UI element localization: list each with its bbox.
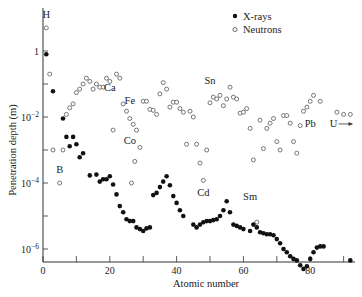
xray-point <box>71 135 76 140</box>
neutron-point <box>161 81 165 85</box>
xray-point <box>348 258 353 263</box>
neutron-point <box>205 148 209 152</box>
neutron-point <box>215 97 219 101</box>
xray-point <box>178 208 183 213</box>
neutron-point <box>318 99 322 103</box>
xray-point <box>214 217 219 222</box>
neutron-point <box>285 114 289 118</box>
neutron-point <box>145 99 149 103</box>
neutron-point <box>348 112 352 116</box>
xray-point <box>241 227 246 232</box>
xray-point <box>271 233 276 238</box>
y-tick-label: 10−2 <box>21 110 39 123</box>
xray-point <box>228 210 233 215</box>
neutron-point <box>218 93 222 97</box>
xray-point <box>121 210 126 215</box>
x-tick-label: 40 <box>172 265 182 276</box>
neutron-point <box>151 108 155 112</box>
legend: X-rays Neutrons <box>233 11 282 36</box>
element-label: Cd <box>197 187 210 198</box>
neutron-point <box>241 110 245 114</box>
xray-point <box>74 142 79 147</box>
element-label: Fe <box>125 95 136 106</box>
xray-point <box>281 247 286 252</box>
xray-point <box>148 225 153 230</box>
neutron-point <box>225 97 229 101</box>
neutron-point <box>155 112 159 116</box>
neutron-point <box>105 76 109 80</box>
neutron-point <box>261 147 265 151</box>
x-tick-label: 20 <box>105 265 115 276</box>
neutron-point <box>195 142 199 146</box>
neutron-point <box>68 106 72 110</box>
xray-point <box>218 214 223 219</box>
y-tick-label: 1 <box>34 46 39 57</box>
x-axis-label: Atomic number <box>173 278 240 289</box>
xray-point <box>77 155 82 160</box>
element-label: U <box>330 118 338 129</box>
neutron-point <box>48 72 52 76</box>
xray-point <box>168 183 173 188</box>
xray-point <box>298 263 303 268</box>
xray-point <box>164 174 169 179</box>
element-label: B <box>56 164 63 175</box>
neutron-point <box>185 142 189 146</box>
neutron-point <box>81 82 85 86</box>
xray-point <box>321 244 326 249</box>
penetration-depth-chart: 020406080110−210−410−6 HCaFeCoBSnCdSmPbU… <box>0 0 362 297</box>
xray-point <box>311 250 316 255</box>
neutron-point <box>235 97 239 101</box>
xray-point <box>61 116 66 121</box>
neutron-point <box>84 76 88 80</box>
xray-point <box>171 194 176 199</box>
neutron-legend-marker <box>233 28 237 32</box>
xray-point <box>94 172 99 177</box>
element-label: H <box>43 9 51 20</box>
neutron-point <box>278 148 282 152</box>
xray-point <box>221 208 226 213</box>
neutron-point <box>158 92 162 96</box>
neutron-point <box>58 181 62 185</box>
neutron-point <box>61 148 65 152</box>
neutron-point <box>201 178 205 182</box>
neutron-point <box>64 112 68 116</box>
neutron-point <box>78 87 82 91</box>
xray-point <box>108 174 113 179</box>
neutron-point <box>221 104 225 108</box>
xray-point <box>305 264 310 269</box>
neutron-point <box>191 115 195 119</box>
x-tick-label: 0 <box>41 265 46 276</box>
neutron-point <box>181 110 185 114</box>
neutron-point <box>288 121 292 125</box>
xray-point <box>51 89 56 94</box>
neutron-point <box>44 26 48 30</box>
y-axis-label: Penetration depth (m) <box>7 104 19 196</box>
neutron-point <box>131 122 135 126</box>
neutron-point <box>175 100 179 104</box>
neutron-point <box>312 93 316 97</box>
xray-legend-label: X-rays <box>243 11 272 22</box>
neutron-point <box>188 109 192 113</box>
neutron-point <box>88 79 92 83</box>
element-label: Sm <box>243 191 257 202</box>
neutron-point <box>91 87 95 91</box>
x-tick-label: 60 <box>238 265 248 276</box>
xray-point <box>64 135 69 140</box>
neutron-point <box>165 87 169 91</box>
xray-legend-marker <box>233 14 237 18</box>
xray-point <box>254 225 259 230</box>
xray-point <box>278 241 283 246</box>
element-label: Pb <box>305 118 316 129</box>
neutron-point <box>302 109 306 113</box>
xray-point <box>275 237 280 242</box>
xray-point <box>295 258 300 263</box>
neutron-point <box>74 91 78 95</box>
xray-point <box>161 179 166 184</box>
xray-point <box>118 204 123 209</box>
neutron-point <box>138 145 142 149</box>
neutron-point <box>265 126 269 130</box>
axis-ticks: 020406080110−210−410−6 <box>21 46 344 277</box>
neutron-point <box>248 126 252 130</box>
neutron-point <box>125 109 129 113</box>
xray-point <box>81 151 86 156</box>
